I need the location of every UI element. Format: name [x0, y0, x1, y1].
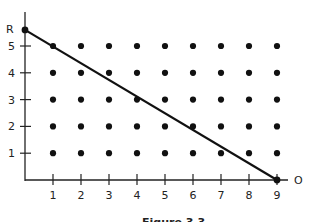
endpoint-marker — [22, 27, 29, 34]
lattice-dot — [162, 97, 168, 103]
lattice-dot — [134, 43, 140, 49]
lattice-dot — [134, 70, 140, 76]
lattice-dot — [218, 97, 224, 103]
lattice-dot — [190, 43, 196, 49]
budget-line — [25, 30, 277, 180]
x-axis-label: O — [294, 174, 303, 187]
lattice-dot — [78, 70, 84, 76]
lattice-dot — [246, 150, 252, 156]
lattice-dot — [162, 43, 168, 49]
figure-caption: Figure 3.3 — [142, 216, 205, 222]
lattice-dot — [134, 123, 140, 129]
lattice-dot — [218, 43, 224, 49]
x-tick-label: 5 — [162, 189, 169, 202]
lattice-dot — [50, 123, 56, 129]
lattice-dot — [246, 70, 252, 76]
lattice-dot — [246, 123, 252, 129]
lattice-dot — [274, 70, 280, 76]
lattice-dot — [78, 150, 84, 156]
x-tick-label: 8 — [246, 189, 253, 202]
lattice-dot — [274, 97, 280, 103]
y-tick-label: 3 — [8, 94, 15, 107]
lattice-dot — [246, 97, 252, 103]
lattice-dot — [246, 43, 252, 49]
y-tick-label: 1 — [8, 147, 15, 160]
lattice-dot — [50, 97, 56, 103]
lattice-dot — [190, 97, 196, 103]
x-tick-label: 4 — [134, 189, 141, 202]
x-tick-label: 1 — [50, 189, 57, 202]
lattice-dot — [106, 43, 112, 49]
lattice-dot — [106, 97, 112, 103]
y-tick-label: 5 — [8, 40, 15, 53]
y-tick-label: 2 — [8, 120, 15, 133]
lattice-chart: 12345 123456789 R O Figure 3.3 — [0, 0, 322, 222]
y-ticks: 12345 — [8, 40, 31, 160]
lattice-dot — [162, 70, 168, 76]
lattice-dot — [106, 123, 112, 129]
lattice-dot — [134, 150, 140, 156]
lattice-dot — [190, 70, 196, 76]
x-tick-label: 6 — [190, 189, 197, 202]
x-tick-label: 3 — [106, 189, 113, 202]
lattice-dot — [274, 123, 280, 129]
x-ticks: 123456789 — [50, 174, 281, 202]
x-tick-label: 7 — [218, 189, 225, 202]
x-tick-label: 2 — [78, 189, 85, 202]
lattice-dot — [218, 70, 224, 76]
lattice-dot — [162, 150, 168, 156]
lattice-dot — [274, 150, 280, 156]
lattice-dot — [78, 97, 84, 103]
endpoint-marker — [274, 177, 281, 184]
x-tick-label: 9 — [274, 189, 281, 202]
lattice-dot — [50, 70, 56, 76]
lattice-dot — [190, 150, 196, 156]
lattice-dot — [274, 43, 280, 49]
lattice-dot — [218, 150, 224, 156]
lattice-dot — [78, 123, 84, 129]
lattice-dot — [218, 123, 224, 129]
y-tick-label: 4 — [8, 67, 15, 80]
lattice-dot — [106, 150, 112, 156]
lattice-dots — [50, 43, 280, 156]
lattice-dot — [78, 43, 84, 49]
lattice-dot — [162, 123, 168, 129]
lattice-dot — [106, 70, 112, 76]
lattice-dot — [50, 150, 56, 156]
y-axis-label: R — [6, 23, 14, 36]
